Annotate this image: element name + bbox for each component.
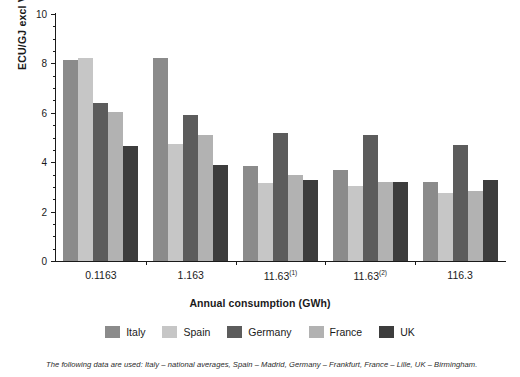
tick-mark xyxy=(51,261,56,262)
x-axis-tick xyxy=(325,261,326,265)
bar-group: 11.63(1) xyxy=(236,14,326,261)
bar-group-bars xyxy=(56,14,146,261)
bar-italy[interactable] xyxy=(243,166,258,261)
legend-item-italy[interactable]: Italy xyxy=(105,326,145,338)
legend-swatch-icon xyxy=(379,326,394,338)
bar-uk[interactable] xyxy=(213,165,228,261)
bar-group: 0.1163 xyxy=(56,14,146,261)
legend-item-france[interactable]: France xyxy=(309,326,363,338)
legend-item-spain[interactable]: Spain xyxy=(162,326,210,338)
bar-uk[interactable] xyxy=(123,146,138,261)
bar-spain[interactable] xyxy=(168,144,183,261)
bar-france[interactable] xyxy=(468,191,483,261)
bar-chart: ECU/GJ excl VAT 0246810 0.11631.16311.63… xyxy=(0,0,520,377)
y-tick-label: 2 xyxy=(41,206,47,217)
bar-france[interactable] xyxy=(378,182,393,261)
bar-spain[interactable] xyxy=(78,58,93,261)
bar-spain[interactable] xyxy=(258,183,273,261)
bar-italy[interactable] xyxy=(333,170,348,261)
y-axis-title: ECU/GJ excl VAT xyxy=(16,0,28,70)
x-axis-tick xyxy=(415,261,416,265)
bar-spain[interactable] xyxy=(438,193,453,261)
bar-group-bars xyxy=(236,14,326,261)
legend-swatch-icon xyxy=(309,326,324,338)
bar-group-bars xyxy=(146,14,236,261)
chart-footnote: The following data are used: Italy – nat… xyxy=(46,360,506,369)
legend-swatch-icon xyxy=(227,326,242,338)
bar-germany[interactable] xyxy=(363,135,378,261)
bar-uk[interactable] xyxy=(483,180,498,262)
bar-spain[interactable] xyxy=(348,186,363,261)
bar-france[interactable] xyxy=(288,175,303,261)
x-tick-label: 116.3 xyxy=(447,269,473,281)
legend-label: UK xyxy=(400,326,415,338)
x-axis-tick xyxy=(236,261,237,265)
x-tick-label: 11.63(1) xyxy=(264,269,297,282)
legend-swatch-icon xyxy=(162,326,177,338)
chart-legend: ItalySpainGermanyFranceUK xyxy=(0,326,520,338)
bar-germany[interactable] xyxy=(273,133,288,261)
legend-label: Germany xyxy=(248,326,291,338)
legend-label: Italy xyxy=(126,326,145,338)
bar-france[interactable] xyxy=(108,112,123,261)
plot-area: 0246810 0.11631.16311.63(1)11.63(2)116.3 xyxy=(56,14,505,261)
bar-group-bars xyxy=(415,14,505,261)
bar-italy[interactable] xyxy=(153,58,168,261)
bar-group: 1.163 xyxy=(146,14,236,261)
y-tick-label: 0 xyxy=(41,256,47,267)
legend-item-germany[interactable]: Germany xyxy=(227,326,291,338)
bar-group-bars xyxy=(325,14,415,261)
bar-group: 11.63(2) xyxy=(325,14,415,261)
legend-label: Spain xyxy=(183,326,210,338)
legend-item-uk[interactable]: UK xyxy=(379,326,415,338)
y-tick-label: 10 xyxy=(36,9,47,20)
x-axis-line xyxy=(55,261,506,262)
x-tick-label-superscript: (2) xyxy=(379,269,387,276)
bar-germany[interactable] xyxy=(453,145,468,261)
x-tick-label: 1.163 xyxy=(178,269,204,281)
bar-uk[interactable] xyxy=(393,182,408,261)
legend-swatch-icon xyxy=(105,326,120,338)
bar-germany[interactable] xyxy=(93,103,108,261)
y-tick-label: 8 xyxy=(41,58,47,69)
bar-uk[interactable] xyxy=(303,180,318,262)
y-tick-label: 4 xyxy=(41,157,47,168)
bar-italy[interactable] xyxy=(63,60,78,261)
x-tick-label: 0.1163 xyxy=(85,269,116,281)
legend-label: France xyxy=(330,326,363,338)
bar-group: 116.3 xyxy=(415,14,505,261)
x-axis-tick xyxy=(146,261,147,265)
x-tick-label: 11.63(2) xyxy=(354,269,387,282)
x-axis-title: Annual consumption (GWh) xyxy=(0,297,520,309)
bar-italy[interactable] xyxy=(423,182,438,261)
bar-germany[interactable] xyxy=(183,115,198,261)
bar-france[interactable] xyxy=(198,135,213,261)
x-tick-label-superscript: (1) xyxy=(289,269,297,276)
y-tick-label: 6 xyxy=(41,107,47,118)
